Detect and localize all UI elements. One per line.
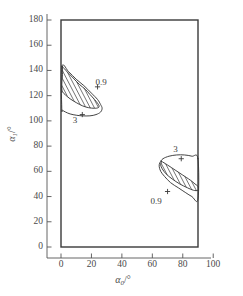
y-axis-title-unit: /° — [6, 126, 17, 133]
plus-marker — [179, 156, 184, 161]
y-tick-label: 120 — [0, 91, 43, 101]
x-axis-title: α0/° — [100, 275, 146, 287]
contour-value-label: 3 — [73, 116, 78, 125]
x-tick-label: 60 — [138, 260, 166, 270]
x-tick-label: 0 — [47, 260, 75, 270]
y-axis-title-symbol: α — [6, 137, 17, 142]
x-tick-label: 80 — [169, 260, 197, 270]
y-tick-label: 60 — [0, 166, 43, 176]
plus-marker — [165, 189, 170, 194]
x-tick-label: 20 — [77, 260, 105, 270]
y-tick-label: 40 — [0, 192, 43, 202]
y-axis-title: α1/° — [7, 112, 19, 156]
y-tick-label: 140 — [0, 65, 43, 75]
x-tick-label: 40 — [108, 260, 136, 270]
y-tick-label: 180 — [0, 15, 43, 25]
y-tick-label: 20 — [0, 217, 43, 227]
y-tick-label: 0 — [0, 242, 43, 252]
x-tick-marks — [61, 254, 213, 259]
y-tick-label: 160 — [0, 40, 43, 50]
contour-value-label: 0.9 — [150, 197, 161, 206]
contour-contour-3-lower-right — [159, 155, 199, 202]
contour-value-label: 0.9 — [96, 78, 107, 87]
x-axis-title-unit: /° — [124, 274, 131, 285]
plot-frame — [61, 20, 198, 247]
contour-curves — [61, 65, 199, 202]
x-tick-label: 100 — [199, 260, 227, 270]
contour-plot: 020406080100120140160180 020406080100 0.… — [0, 0, 243, 296]
plus-marker — [80, 112, 85, 117]
y-axis-title-subscript: 1 — [11, 133, 19, 137]
y-tick-marks — [47, 20, 52, 247]
contour-value-label: 3 — [173, 145, 178, 154]
